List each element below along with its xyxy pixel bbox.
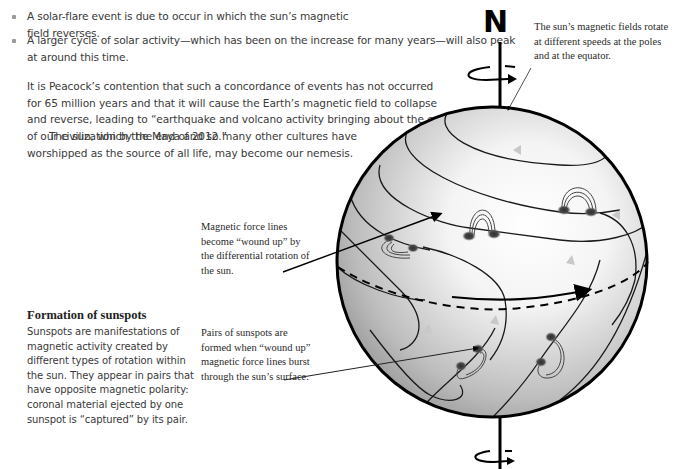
sidebar-heading: Formation of sunspots [27, 308, 146, 323]
sun-sphere [335, 107, 650, 420]
callout-wound-up: Magnetic force lines become “wound up” b… [201, 220, 311, 278]
callout-leader-poles [508, 68, 531, 110]
callout-sunspot-pairs: Pairs of sunspots are formed when “wound… [201, 326, 311, 384]
sidebar-body: Sunspots are manifestations of magnetic … [27, 325, 197, 427]
rotation-arrow-bottom-icon [475, 451, 515, 465]
rotation-arrow-top-icon [468, 66, 517, 84]
callout-poles: The sun’s magnetic fields rotate at diff… [534, 20, 674, 64]
north-pole-label: N [483, 4, 508, 39]
